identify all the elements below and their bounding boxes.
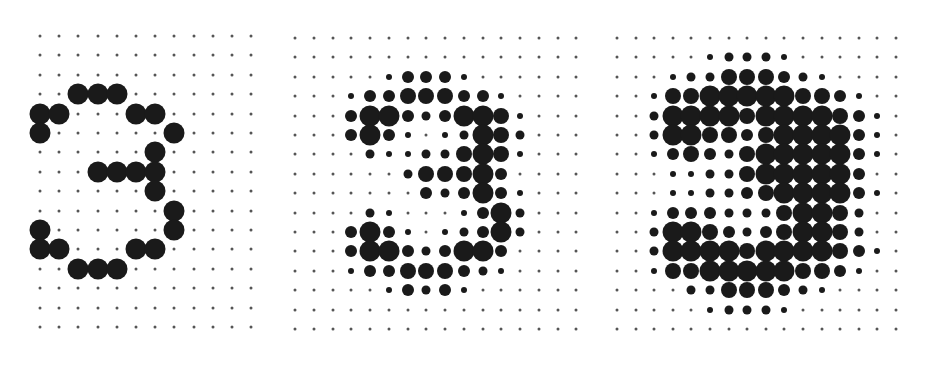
grid-dot [537, 75, 540, 78]
grid-dot [77, 229, 80, 232]
grid-dot [481, 56, 484, 59]
grid-dot [58, 267, 61, 270]
grid-dot [39, 170, 42, 173]
grid-dot [671, 328, 674, 331]
filled-dot [516, 131, 525, 140]
filled-dot [760, 226, 772, 238]
filled-dot [776, 224, 792, 240]
grid-dot [481, 289, 484, 292]
grid-dot [231, 151, 234, 154]
grid-dot [876, 231, 879, 234]
filled-dot [739, 69, 755, 85]
grid-dot [500, 328, 503, 331]
grid-dot [312, 289, 315, 292]
grid-dot [211, 151, 214, 154]
grid-dot [154, 54, 157, 57]
filled-dot [30, 103, 51, 124]
filled-dot [422, 247, 431, 256]
grid-dot [350, 153, 353, 156]
grid-dot [425, 134, 428, 137]
filled-dot [723, 226, 735, 238]
grid-dot [616, 95, 619, 98]
grid-dot [192, 132, 195, 135]
grid-dot [575, 95, 578, 98]
grid-dot [519, 269, 522, 272]
filled-dot [456, 146, 472, 162]
grid-dot [331, 250, 334, 253]
grid-dot [96, 54, 99, 57]
filled-dot [441, 150, 450, 159]
grid-dot [709, 328, 712, 331]
filled-dot [832, 224, 848, 240]
filled-dot [405, 151, 411, 157]
grid-dot [462, 328, 465, 331]
filled-dot [461, 210, 467, 216]
grid-dot [876, 75, 879, 78]
grid-dot [39, 93, 42, 96]
grid-dot [294, 231, 297, 234]
filled-dot [345, 110, 357, 122]
grid-dot [115, 112, 118, 115]
grid-dot [96, 229, 99, 232]
grid-dot [500, 308, 503, 311]
filled-dot [706, 169, 715, 178]
grid-dot [250, 93, 253, 96]
grid-dot [77, 248, 80, 251]
grid-dot [575, 308, 578, 311]
grid-dot [192, 248, 195, 251]
filled-dot [853, 245, 865, 257]
grid-dot [556, 250, 559, 253]
grid-dot [250, 73, 253, 76]
grid-dot [895, 289, 898, 292]
filled-dot [345, 226, 357, 238]
grid-dot [406, 192, 409, 195]
grid-dot [895, 172, 898, 175]
filled-dot [516, 208, 525, 217]
filled-dot [707, 307, 713, 313]
grid-dot [425, 328, 428, 331]
grid-dot [231, 267, 234, 270]
grid-dot [192, 73, 195, 76]
grid-dot [173, 151, 176, 154]
filled-dot [707, 54, 713, 60]
grid-dot [556, 211, 559, 214]
grid-dot [173, 190, 176, 193]
grid-dot [115, 306, 118, 309]
grid-dot [192, 267, 195, 270]
grid-dot [671, 37, 674, 40]
grid-dot [653, 328, 656, 331]
grid-dot [616, 172, 619, 175]
grid-dot [369, 56, 372, 59]
grid-dot [556, 328, 559, 331]
grid-dot [671, 56, 674, 59]
grid-dot [876, 328, 879, 331]
grid-dot [895, 114, 898, 117]
filled-dot [743, 228, 752, 237]
grid-dot [115, 132, 118, 135]
grid-dot [96, 306, 99, 309]
filled-dot [459, 131, 468, 140]
grid-dot [135, 229, 138, 232]
grid-dot [500, 289, 503, 292]
grid-dot [537, 172, 540, 175]
filled-dot [164, 200, 185, 221]
grid-dot [312, 95, 315, 98]
grid-dot [294, 56, 297, 59]
grid-dot [312, 75, 315, 78]
filled-dot [383, 226, 395, 238]
grid-dot [231, 306, 234, 309]
grid-dot [802, 308, 805, 311]
grid-dot [211, 306, 214, 309]
grid-dot [250, 306, 253, 309]
grid-dot [211, 73, 214, 76]
grid-dot [616, 231, 619, 234]
filled-dot [145, 181, 166, 202]
grid-dot [294, 211, 297, 214]
filled-dot [651, 210, 657, 216]
filled-dot [458, 265, 470, 277]
filled-dot [704, 148, 716, 160]
filled-dot [706, 286, 715, 295]
filled-dot [706, 189, 715, 198]
filled-dot [781, 54, 787, 60]
grid-dot [115, 326, 118, 329]
